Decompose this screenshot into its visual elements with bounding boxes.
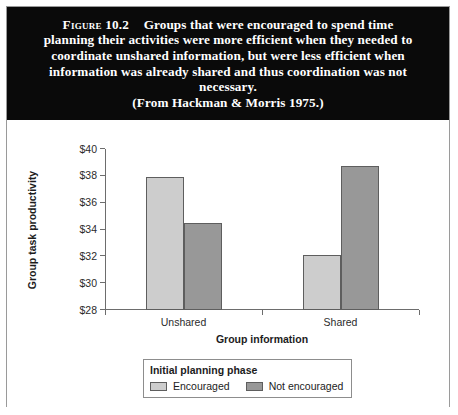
y-axis-tick-label: $30 <box>79 278 97 289</box>
legend-item: Not encouraged <box>246 380 344 392</box>
bar <box>341 166 379 310</box>
x-axis-category-label: Unshared <box>161 317 207 328</box>
bar <box>303 255 341 310</box>
y-axis-tick <box>100 255 105 256</box>
legend-label: Not encouraged <box>269 380 344 392</box>
bar <box>184 223 222 310</box>
figure-label: Figure <box>63 17 102 32</box>
x-axis-tick <box>262 310 263 315</box>
y-axis-tick <box>100 175 105 176</box>
bar-chart: Group task productivity $40$38$36$34$32$… <box>7 120 449 407</box>
x-axis-category-label: Shared <box>324 317 358 328</box>
y-axis-tick-label: $28 <box>79 305 97 316</box>
x-axis-tick <box>105 310 106 315</box>
y-axis-tick-label: $40 <box>79 144 97 155</box>
y-axis-tick-label: $34 <box>79 224 97 235</box>
y-axis-tick <box>100 148 105 149</box>
y-axis-tick <box>100 282 105 283</box>
y-axis-tick <box>100 202 105 203</box>
y-axis-title-text: Group task productivity <box>26 170 38 288</box>
legend-swatch <box>246 382 263 391</box>
figure-caption-source: (From Hackman & Morris 1975.) <box>132 95 323 110</box>
y-axis-tick <box>100 229 105 230</box>
y-axis-tick-label: $32 <box>79 251 97 262</box>
y-axis-tick-label: $36 <box>79 197 97 208</box>
y-axis-line <box>105 149 106 310</box>
plot-area: $40$38$36$34$32$30$28 UnsharedShared <box>105 149 419 310</box>
y-axis-title: Group task productivity <box>25 149 39 310</box>
x-axis-tick <box>419 310 420 315</box>
figure-container: Figure 10.2 Groups that were encouraged … <box>6 6 450 407</box>
figure-number: 10.2 <box>105 17 128 32</box>
chart-legend: Initial planning phase EncouragedNot enc… <box>143 359 352 398</box>
y-axis-tick-label: $38 <box>79 171 97 182</box>
legend-swatch <box>150 382 167 391</box>
legend-item: Encouraged <box>150 380 230 392</box>
legend-items: EncouragedNot encouraged <box>150 380 343 392</box>
legend-title: Initial planning phase <box>150 364 343 376</box>
x-axis-title: Group information <box>105 333 419 345</box>
figure-caption-band: Figure 10.2 Groups that were encouraged … <box>7 7 449 120</box>
figure-caption-text: Figure 10.2 Groups that were encouraged … <box>42 17 414 111</box>
legend-label: Encouraged <box>173 380 230 392</box>
bar <box>146 177 184 310</box>
